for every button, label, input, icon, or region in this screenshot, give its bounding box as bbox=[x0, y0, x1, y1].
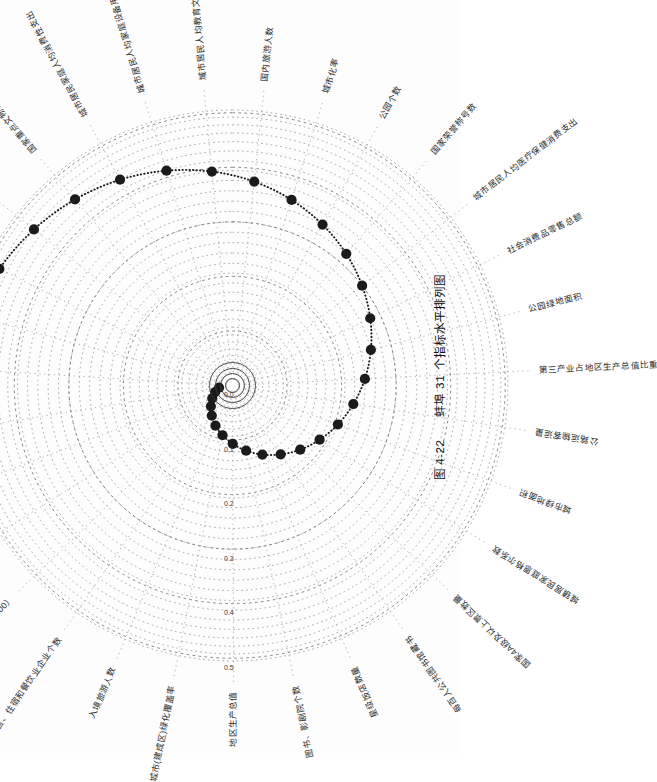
radial-tick-label_2: 0.2 bbox=[224, 500, 234, 507]
spoke-lines bbox=[0, 86, 532, 685]
radial-tick-label_5: 0.5 bbox=[224, 663, 234, 670]
radial-tick-label_1: 0.1 bbox=[224, 445, 234, 452]
caption-title: 蚌埠 31 个指标水平排列图 bbox=[433, 274, 445, 417]
indicator-label-24: 地区生产总值 bbox=[229, 691, 238, 746]
radial-tick-label_0: 0.0 bbox=[224, 391, 234, 398]
figure-caption: 图 4-22 蚌埠 31 个指标水平排列图 bbox=[430, 0, 446, 753]
spiral-chart-plot: 0.00.10.20.30.40.5 人均地区生产总值第三产业就业人数占全部就业… bbox=[0, 35, 582, 735]
radial-tick-label_3: 0.3 bbox=[224, 554, 234, 561]
center-rings bbox=[209, 362, 255, 408]
radial-tick-label_4: 0.4 bbox=[224, 609, 234, 616]
caption-number: 图 4-22 bbox=[433, 439, 445, 479]
data-point-markers bbox=[0, 165, 375, 459]
data-spiral-path bbox=[0, 169, 371, 454]
